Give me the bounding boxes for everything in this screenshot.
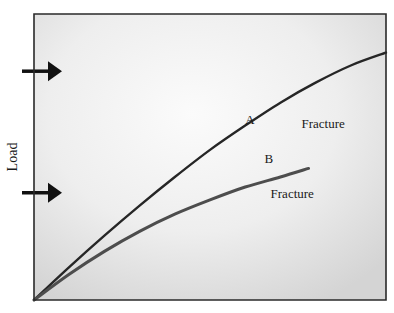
fracture-annotation-a: Fracture <box>302 116 346 131</box>
load-chart: AFractureBFracture Load <box>0 0 394 313</box>
fracture-annotation-b: Fracture <box>271 186 315 201</box>
series-label-a: A <box>245 112 255 127</box>
y-axis-label: Load <box>5 143 20 172</box>
plot-area <box>34 14 386 300</box>
series-label-b: B <box>265 151 274 166</box>
